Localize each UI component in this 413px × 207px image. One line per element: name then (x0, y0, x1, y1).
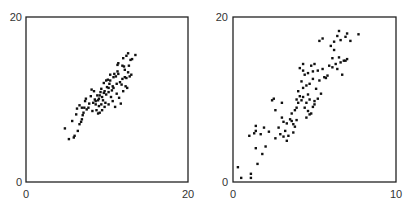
right-data-point (328, 65, 330, 67)
left-data-point (82, 112, 84, 114)
left-data-point (75, 113, 77, 115)
left-data-point (80, 121, 82, 123)
right-data-point (294, 109, 296, 111)
right-data-point (312, 70, 314, 72)
right-data-point (253, 132, 255, 134)
right-data-point (281, 116, 283, 118)
left-data-point (101, 109, 103, 111)
left-data-point (105, 93, 107, 95)
right-data-point (331, 66, 333, 68)
right-data-point (336, 68, 338, 70)
left-data-point (108, 83, 110, 85)
left-data-point (100, 88, 102, 90)
right-data-point (317, 98, 319, 100)
right-data-point (287, 135, 289, 137)
left-data-point (109, 79, 111, 81)
left-data-point (112, 100, 114, 102)
left-data-point (99, 112, 101, 114)
right-data-point (346, 32, 348, 34)
right-data-point (336, 35, 338, 37)
left-data-point (109, 74, 111, 76)
right-data-point (277, 126, 279, 128)
left-data-point (117, 73, 119, 75)
left-data-point (92, 102, 94, 104)
right-data-point (305, 84, 307, 86)
left-data-point (121, 78, 123, 80)
right-data-point (305, 116, 307, 118)
right-data-point (318, 40, 320, 42)
right-data-point (302, 96, 304, 98)
right-data-point (291, 112, 293, 114)
right-data-point (302, 87, 304, 89)
right-data-point (304, 74, 306, 76)
left-x-tick-max: 20 (182, 188, 194, 200)
right-data-point (307, 110, 309, 112)
right-data-point (318, 79, 320, 81)
right-data-point (313, 63, 315, 65)
right-data-point (264, 145, 266, 147)
left-data-point (105, 79, 107, 81)
left-data-point (114, 106, 116, 108)
right-data-point (333, 49, 335, 51)
left-data-point (99, 94, 101, 96)
right-data-point (263, 126, 265, 128)
left-data-point (116, 70, 118, 72)
left-data-point (103, 106, 105, 108)
right-data-point (279, 133, 281, 135)
left-data-point (68, 138, 70, 140)
right-x-tick-min: 0 (230, 188, 236, 200)
right-data-point (315, 88, 317, 90)
right-data-point (341, 74, 343, 76)
right-data-point (292, 131, 294, 133)
left-data-point (125, 55, 127, 57)
right-data-point (300, 99, 302, 101)
left-data-point (119, 81, 121, 83)
left-data-point (85, 98, 87, 100)
right-data-point (273, 98, 275, 100)
left-data-point (99, 91, 101, 93)
right-data-point (294, 126, 296, 128)
right-data-point (317, 69, 319, 71)
right-scatter-panel: 20 0 0 10 (216, 11, 402, 200)
left-data-point (94, 98, 96, 100)
right-data-point (344, 36, 346, 38)
left-data-point (131, 58, 133, 60)
left-data-point (87, 107, 89, 109)
scatter-plot-figure: 20 0 0 20 20 0 0 10 (0, 0, 413, 207)
right-data-point (326, 74, 328, 76)
left-points-group (64, 52, 137, 140)
right-data-point (274, 109, 276, 111)
left-data-point (107, 91, 109, 93)
right-data-point (321, 37, 323, 39)
right-data-point (310, 65, 312, 67)
right-data-point (313, 103, 315, 105)
left-data-point (112, 87, 114, 89)
right-data-point (255, 130, 257, 132)
right-data-point (291, 120, 293, 122)
left-x-tick-min: 0 (23, 188, 29, 200)
left-scatter-panel: 20 0 0 20 (10, 11, 194, 200)
left-plot-frame (26, 17, 188, 182)
left-data-point (96, 94, 98, 96)
left-data-point (78, 104, 80, 106)
right-data-point (248, 135, 250, 137)
left-data-point (122, 57, 124, 59)
right-data-point (250, 177, 252, 179)
left-data-point (81, 118, 83, 120)
left-data-point (130, 74, 132, 76)
right-y-tick-min: 0 (222, 176, 228, 188)
left-data-point (112, 76, 114, 78)
left-data-point (127, 52, 129, 54)
left-data-point (64, 127, 66, 129)
right-data-point (250, 173, 252, 175)
left-data-point (98, 105, 100, 107)
left-data-point (83, 107, 85, 109)
right-data-point (310, 112, 312, 114)
right-data-point (302, 69, 304, 71)
left-data-point (120, 83, 122, 85)
left-data-point (84, 100, 86, 102)
right-data-point (349, 40, 351, 42)
left-data-point (90, 88, 92, 90)
right-x-tick-max: 10 (390, 188, 402, 200)
right-data-point (274, 137, 276, 139)
